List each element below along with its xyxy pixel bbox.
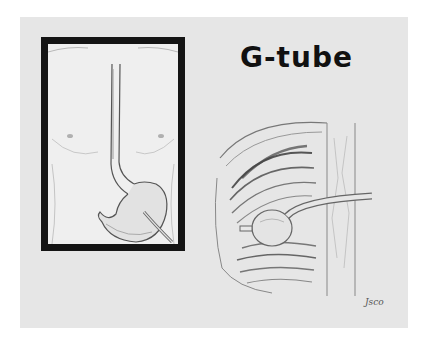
slide-title: G-tube [240, 44, 353, 72]
stomach-wall-cross-section [212, 118, 372, 296]
artist-signature: Jsco [365, 297, 384, 307]
torso-stomach-illustration [48, 44, 178, 244]
torso-illustration-frame [41, 37, 185, 251]
cross-section-illustration [212, 118, 372, 296]
